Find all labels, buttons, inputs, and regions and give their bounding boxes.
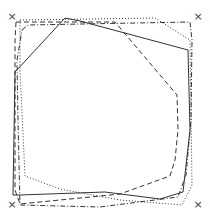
- corner-marker-bottom-left: ×: [7, 199, 17, 210]
- corner-marker-top-left: ×: [7, 11, 17, 22]
- dashed-polygon: [15, 22, 178, 204]
- dash-dot-polygon: [17, 22, 192, 207]
- corner-marker-top-right: ×: [193, 11, 203, 22]
- solid-polygon: [13, 18, 190, 199]
- corner-marker-bottom-right: ×: [193, 199, 203, 210]
- polygon-diagram: [0, 0, 210, 218]
